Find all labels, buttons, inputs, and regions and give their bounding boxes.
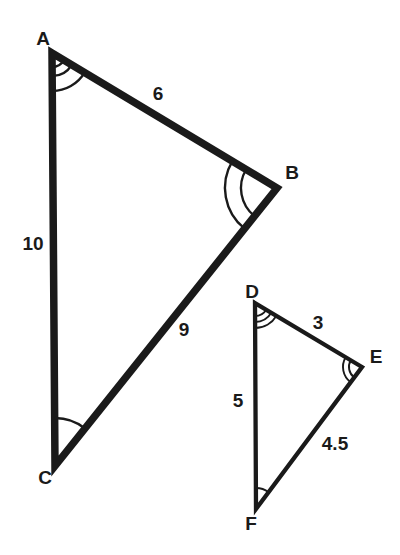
- triangle-def-outline: [255, 303, 362, 509]
- geometry-figure: A B C 6 10 9 D E F 3 5 4.5: [0, 0, 400, 555]
- side-label-df: 5: [233, 390, 244, 411]
- vertex-label-e: E: [370, 346, 383, 367]
- side-label-ab: 6: [153, 83, 164, 104]
- vertex-label-b: B: [285, 162, 299, 183]
- vertex-label-d: D: [245, 281, 259, 302]
- vertex-label-a: A: [36, 28, 50, 49]
- vertex-label-c: C: [38, 467, 52, 488]
- side-label-de: 3: [313, 312, 324, 333]
- similar-triangles-svg: A B C 6 10 9 D E F 3 5 4.5: [0, 0, 400, 555]
- side-label-cb: 9: [179, 319, 190, 340]
- angle-arc-c: [55, 418, 85, 429]
- side-label-ac: 10: [22, 233, 43, 254]
- side-label-fe: 4.5: [322, 433, 349, 454]
- triangle-shapes: [52, 53, 362, 509]
- vertex-label-f: F: [245, 513, 257, 534]
